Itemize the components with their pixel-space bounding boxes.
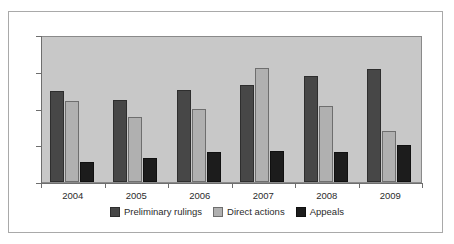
y-axis-tick-label-wrap: 400: [0, 36, 41, 37]
x-axis-tick: [41, 184, 42, 188]
y-axis-line: [41, 36, 42, 184]
legend-item-direct-actions[interactable]: Direct actions: [213, 206, 285, 217]
bar-2009-preliminary-rulings: [367, 69, 381, 182]
chart-figure: 0100200300400 200420052006200720082009 P…: [0, 0, 454, 244]
bar-2006-direct-actions: [192, 109, 206, 182]
x-axis-tick: [105, 184, 106, 188]
chart-legend: Preliminary rulingsDirect actionsAppeals: [0, 206, 454, 217]
x-axis-tick: [422, 184, 423, 188]
x-axis-tick-label: 2006: [168, 190, 232, 202]
bar-2004-appeals: [80, 162, 94, 182]
bar-2007-preliminary-rulings: [240, 85, 254, 182]
x-axis-tick-label: 2007: [232, 190, 296, 202]
bar-2008-direct-actions: [319, 106, 333, 182]
x-axis-tick-label: 2008: [295, 190, 359, 202]
bar-2006-preliminary-rulings: [177, 90, 191, 182]
x-axis-tick-label: 2009: [359, 190, 423, 202]
bar-2004-direct-actions: [65, 101, 79, 182]
y-axis-tick-label-wrap: 100: [0, 146, 41, 147]
bar-2005-appeals: [143, 158, 157, 182]
bar-2009-appeals: [397, 145, 411, 182]
legend-item-preliminary-rulings[interactable]: Preliminary rulings: [110, 206, 202, 217]
bar-2007-appeals: [270, 151, 284, 182]
bar-2008-appeals: [334, 152, 348, 182]
legend-item-appeals[interactable]: Appeals: [296, 206, 344, 217]
legend-swatch-icon: [296, 207, 306, 217]
bar-2007-direct-actions: [255, 68, 269, 182]
bar-2005-preliminary-rulings: [113, 100, 127, 182]
x-axis-tick: [168, 184, 169, 188]
bar-2006-appeals: [207, 152, 221, 182]
legend-label: Preliminary rulings: [124, 206, 202, 217]
legend-label: Appeals: [310, 206, 344, 217]
y-axis-tick-label-wrap: 200: [0, 110, 41, 111]
x-axis-tick: [232, 184, 233, 188]
bar-2008-preliminary-rulings: [304, 76, 318, 182]
bar-2009-direct-actions: [382, 131, 396, 182]
x-axis-tick: [359, 184, 360, 188]
x-axis-tick-label: 2004: [41, 190, 105, 202]
x-axis-tick-label: 2005: [105, 190, 169, 202]
plot-area: [41, 36, 422, 183]
bar-2004-preliminary-rulings: [50, 91, 64, 183]
bars-container: [42, 37, 421, 182]
legend-swatch-icon: [110, 207, 120, 217]
bar-2005-direct-actions: [128, 117, 142, 182]
y-axis-tick-label-wrap: 300: [0, 73, 41, 74]
legend-swatch-icon: [213, 207, 223, 217]
legend-label: Direct actions: [227, 206, 285, 217]
x-axis-tick: [295, 184, 296, 188]
y-axis-tick-label-wrap: 0: [0, 183, 41, 184]
